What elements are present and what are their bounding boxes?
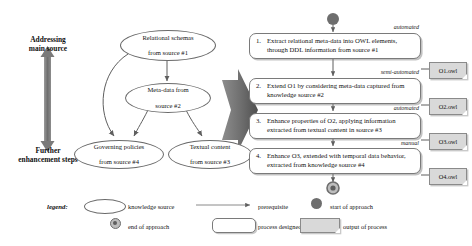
step-3-line2: extracted from textual content in source… — [267, 126, 382, 133]
annotation-step-2: semi-automated — [332, 69, 419, 75]
edge-ks1-ks3 — [103, 54, 128, 136]
legend-title: legend: — [47, 203, 68, 210]
output-o3-owl[interactable]: O3.owl — [429, 133, 467, 150]
legend-knowledge-source-symbol — [84, 199, 126, 214]
legend-end-symbol — [110, 218, 121, 229]
ks1-line1: Relational schemas — [139, 34, 196, 42]
step-1-number: 1. — [256, 37, 267, 46]
legend-output-symbol — [300, 218, 340, 233]
ks3-line1: Governing policies — [91, 143, 147, 151]
end-node-core — [330, 185, 335, 190]
annotation-step-1: automated — [345, 24, 419, 30]
annotation-step-3: automated — [345, 105, 419, 111]
legend-start-symbol — [311, 198, 322, 209]
legend-start-label: start of approach — [330, 203, 373, 210]
ks4-line1: Textual content — [187, 143, 234, 151]
process-step-1[interactable]: 1. Extract relational meta-data into OWL… — [249, 33, 421, 59]
knowledge-source-meta-data[interactable]: Meta-data from source #2 — [125, 83, 211, 113]
step-3-line1: Enhance properties of O2, applying infor… — [267, 117, 396, 124]
knowledge-source-textual-content[interactable]: Textual content from source #3 — [168, 140, 252, 169]
legend-prerequisite-label: prerequisite — [258, 203, 288, 210]
ks2-line1: Meta-data from — [144, 86, 191, 94]
step-4-number: 4. — [256, 152, 267, 161]
process-step-2[interactable]: 2. Extend O1 by considering meta-data ca… — [249, 78, 421, 104]
ks3-line2: from source #4 — [91, 158, 147, 166]
knowledge-source-governing-policies[interactable]: Governing policies from source #4 — [74, 140, 164, 169]
output-o4-owl[interactable]: O4.owl — [429, 168, 467, 185]
ks4-line2: from source #3 — [187, 158, 234, 166]
start-node — [327, 13, 339, 25]
annotation-step-4: manual — [345, 140, 419, 146]
axis-label-top: Addressing main source — [2, 36, 94, 53]
step-2-line1: Extend O1 by considering meta-data captu… — [267, 82, 404, 89]
legend-output-label: output of process — [343, 223, 387, 230]
ks1-line2: from source #1 — [139, 49, 196, 57]
knowledge-source-relational-schemas[interactable]: Relational schemas from source #1 — [120, 30, 216, 61]
step-1-line1: Extract relational meta-data into OWL el… — [267, 37, 397, 44]
diagram-canvas: Addressing main source Further enhanceme… — [0, 0, 472, 246]
process-step-4[interactable]: 4. Enhance O3, extended with temporal da… — [249, 148, 421, 174]
legend-process-symbol — [212, 218, 256, 233]
step-2-number: 2. — [256, 82, 267, 91]
output-o2-owl[interactable]: O2.owl — [429, 98, 467, 115]
legend-end-label: end of approach — [128, 223, 169, 230]
ks2-line2: source #2 — [144, 102, 191, 110]
step-3-number: 3. — [256, 117, 267, 126]
step-4-line1: Enhance O3, extended with temporal data … — [267, 152, 406, 159]
process-step-3[interactable]: 3. Enhance properties of O2, applying in… — [249, 113, 421, 139]
step-4-line2: extracted from knowledge source #4 — [267, 161, 365, 168]
output-o1-owl[interactable]: O1.owl — [429, 62, 467, 79]
step-1-line2: through DDL information from source #1 — [267, 46, 378, 53]
axis-top-line2: main source — [2, 45, 94, 54]
vertical-scope-arrow — [41, 46, 55, 152]
legend-knowledge-source-label: knowledge source — [128, 203, 174, 210]
edge-ks2-ks4 — [186, 110, 202, 136]
step-2-line2: knowledge source #2 — [267, 91, 324, 98]
edge-ks2-ks3 — [134, 110, 148, 136]
